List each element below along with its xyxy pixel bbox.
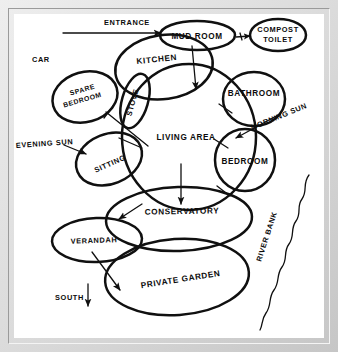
arrow-morning-sun: MORNING SUN (236, 101, 308, 138)
zone-bedroom[interactable]: BEDROOM (215, 129, 275, 191)
zone-conservatory[interactable]: CONSERVATORY (105, 184, 253, 253)
zone-label-bathroom: BATHROOM (228, 89, 280, 98)
house-bubble-plan: MUD ROOM COMPOST TOILET KITCHEN LIVING A… (14, 14, 324, 338)
zone-label-spare-bedroom-line2: BEDROOM (62, 91, 102, 109)
zone-label-compost-toilet-line2: TOILET (263, 35, 293, 44)
river-bank: RIVER BANK (254, 175, 309, 330)
annotation-morning-sun: MORNING SUN (249, 101, 308, 132)
zone-label-verandah: VERANDAH (70, 235, 117, 246)
zone-label-living-area: LIVING AREA (156, 133, 215, 142)
zone-label-kitchen: KITCHEN (136, 53, 177, 66)
zone-private-garden[interactable]: PRIVATE GARDEN (103, 234, 252, 320)
annotation-evening-sun: EVENING SUN (16, 137, 74, 150)
zone-label-conservatory: CONSERVATORY (145, 206, 220, 216)
annotation-entrance: ENTRANCE (104, 18, 150, 27)
arrow-entrance: ENTRANCE (63, 18, 161, 33)
zone-label-sitting: SITTING (93, 153, 127, 175)
arrow-conservatory-to-verandah (119, 204, 142, 219)
zone-label-compost-toilet-line1: COMPOST (257, 25, 299, 34)
annotation-car: CAR (32, 55, 50, 64)
arrow-mud-room-to-compost (236, 33, 250, 40)
window-frame: MUD ROOM COMPOST TOILET KITCHEN LIVING A… (0, 0, 338, 352)
zone-label-bedroom: BEDROOM (222, 157, 269, 166)
arrow-evening-sun: EVENING SUN (16, 137, 86, 154)
arrow-mud-room-to-living (192, 46, 196, 89)
arrow-south: SOUTH (55, 284, 88, 306)
annotation-south: SOUTH (55, 293, 84, 302)
zone-spare-bedroom[interactable]: SPARE BEDROOM (46, 64, 123, 130)
zone-verandah[interactable]: VERANDAH (51, 216, 142, 263)
zone-stove[interactable]: STOVE (115, 71, 155, 132)
zone-label-private-garden: PRIVATE GARDEN (140, 269, 221, 290)
diagram-canvas: MUD ROOM COMPOST TOILET KITCHEN LIVING A… (14, 14, 324, 338)
annotation-river-bank: RIVER BANK (254, 210, 279, 262)
zone-compost-toilet[interactable]: COMPOST TOILET (250, 19, 306, 51)
